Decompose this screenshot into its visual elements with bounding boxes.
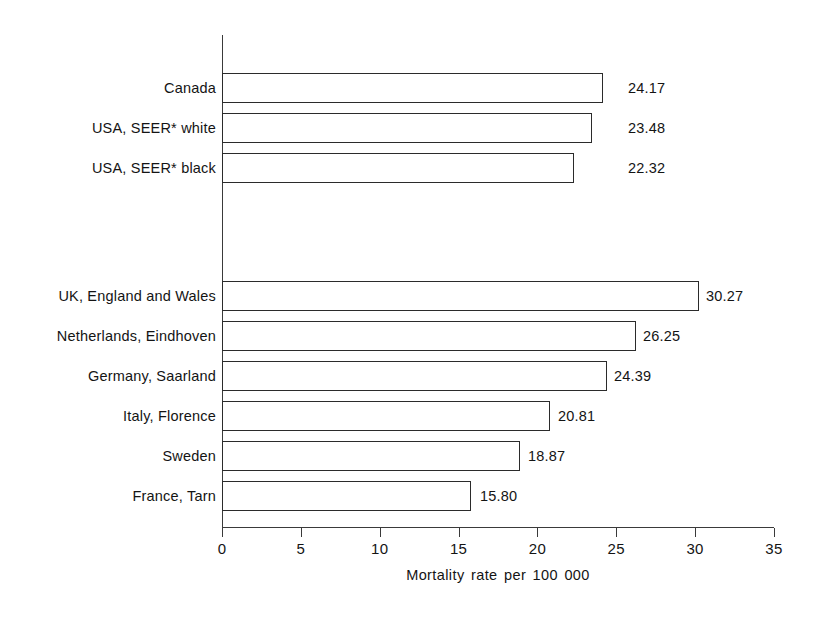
bar-category-label: Germany, Saarland <box>88 361 216 391</box>
x-tick-mark <box>459 528 460 537</box>
x-tick-mark <box>695 528 696 537</box>
bar-category-label: Canada <box>164 73 216 103</box>
x-tick-label: 25 <box>596 540 636 557</box>
bar-value-label: 24.17 <box>628 73 665 103</box>
x-tick-label: 0 <box>202 540 242 557</box>
bar-value-label: 30.27 <box>706 281 743 311</box>
x-tick-label: 35 <box>754 540 794 557</box>
x-tick-mark <box>301 528 302 537</box>
bar-category-label: UK, England and Wales <box>58 281 216 311</box>
x-tick-mark <box>222 528 223 537</box>
bar-rect <box>222 481 471 511</box>
bar-value-label: 24.39 <box>614 361 651 391</box>
bar-rect <box>222 401 550 431</box>
x-tick-mark <box>774 528 775 537</box>
x-axis-line <box>222 527 774 528</box>
x-tick-mark <box>380 528 381 537</box>
mortality-rate-bar-chart: Canada24.17USA, SEER* white23.48USA, SEE… <box>0 0 817 624</box>
bar-rect <box>222 441 520 471</box>
bar-category-label: Italy, Florence <box>123 401 216 431</box>
bar-category-label: USA, SEER* black <box>92 153 216 183</box>
bar-rect <box>222 361 607 391</box>
bar-rect <box>222 153 574 183</box>
x-tick-label: 5 <box>281 540 321 557</box>
bar-rect <box>222 281 699 311</box>
bar-category-label: France, Tarn <box>132 481 216 511</box>
x-tick-label: 20 <box>517 540 557 557</box>
bar-value-label: 18.87 <box>528 441 565 471</box>
bar-category-label: Sweden <box>162 441 216 471</box>
bar-rect <box>222 73 603 103</box>
bar-category-label: Netherlands, Eindhoven <box>57 321 216 351</box>
bar-value-label: 15.80 <box>480 481 517 511</box>
x-tick-mark <box>537 528 538 537</box>
bar-rect <box>222 321 636 351</box>
x-tick-mark <box>616 528 617 537</box>
x-tick-label: 30 <box>675 540 715 557</box>
x-tick-label: 15 <box>439 540 479 557</box>
bar-rect <box>222 113 592 143</box>
x-axis-title: Mortality rate per 100 000 <box>222 567 774 583</box>
bar-category-label: USA, SEER* white <box>92 113 216 143</box>
bar-value-label: 20.81 <box>558 401 595 431</box>
x-tick-label: 10 <box>360 540 400 557</box>
bar-value-label: 22.32 <box>628 153 665 183</box>
bar-value-label: 23.48 <box>628 113 665 143</box>
bar-value-label: 26.25 <box>643 321 680 351</box>
